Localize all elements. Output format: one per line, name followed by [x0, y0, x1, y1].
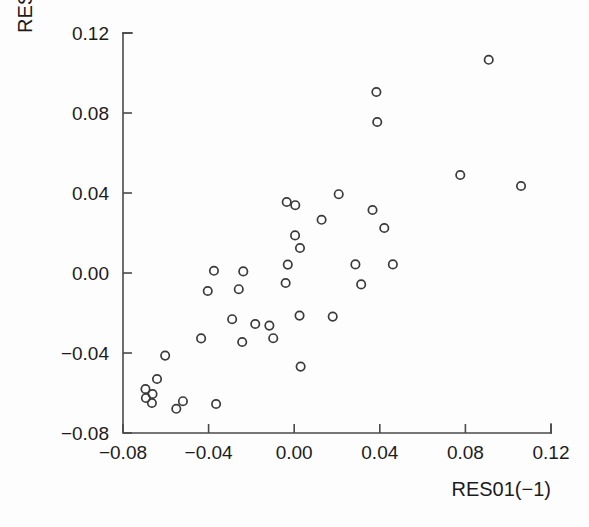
x-tick-label: −0.04 [185, 442, 234, 463]
data-point [296, 244, 304, 252]
y-tick-label: 0.04 [72, 183, 109, 204]
data-point [161, 351, 169, 359]
data-point [235, 285, 243, 293]
plot-canvas: −0.08−0.040.000.040.080.12 −0.08−0.040.0… [0, 0, 589, 527]
data-point [357, 280, 365, 288]
data-point [380, 224, 388, 232]
data-point [141, 385, 149, 393]
data-point [238, 338, 246, 346]
data-point [295, 311, 303, 319]
x-axis-title: RES01(−1) [452, 478, 552, 500]
data-point [153, 375, 161, 383]
data-point [372, 88, 380, 96]
data-point [296, 362, 304, 370]
data-point [281, 279, 289, 287]
tick-marks-group [123, 33, 551, 433]
data-point [329, 312, 337, 320]
data-point [456, 171, 464, 179]
data-point [485, 56, 493, 64]
data-point [204, 287, 212, 295]
axes-group [123, 33, 551, 433]
data-point [251, 320, 259, 328]
data-point [197, 334, 205, 342]
data-point [373, 118, 381, 126]
x-tick-label: 0.04 [361, 442, 398, 463]
x-tick-label: 0.00 [276, 442, 313, 463]
data-point [291, 201, 299, 209]
data-point [291, 231, 299, 239]
data-point [179, 397, 187, 405]
data-point [269, 334, 277, 342]
data-points-group [141, 56, 525, 413]
y-tick-label: 0.00 [72, 263, 109, 284]
y-axis-title: RES01 [14, 0, 36, 33]
x-tick-label: 0.08 [447, 442, 484, 463]
y-tick-label: 0.08 [72, 103, 109, 124]
x-tick-labels-group: −0.08−0.040.000.040.080.12 [99, 442, 570, 463]
y-tick-labels-group: −0.08−0.040.000.040.080.12 [61, 23, 110, 444]
y-tick-label: −0.08 [61, 423, 109, 444]
data-point [283, 198, 291, 206]
data-point [517, 182, 525, 190]
scatter-plot-figure: −0.08−0.040.000.040.080.12 −0.08−0.040.0… [0, 0, 589, 527]
data-point [265, 321, 273, 329]
data-point [239, 267, 247, 275]
data-point [284, 260, 292, 268]
data-point [368, 206, 376, 214]
y-tick-label: 0.12 [72, 23, 109, 44]
data-point [389, 260, 397, 268]
data-point [210, 267, 218, 275]
axis-spine [123, 33, 551, 433]
data-point [228, 315, 236, 323]
x-tick-label: 0.12 [533, 442, 570, 463]
data-point [317, 216, 325, 224]
data-point [351, 260, 359, 268]
data-point [335, 190, 343, 198]
data-point [172, 405, 180, 413]
y-tick-label: −0.04 [61, 343, 110, 364]
data-point [212, 400, 220, 408]
x-tick-label: −0.08 [99, 442, 147, 463]
data-point [142, 394, 150, 402]
